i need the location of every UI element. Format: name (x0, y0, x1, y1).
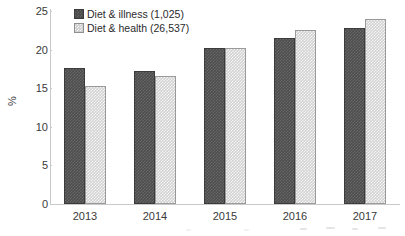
legend-item-diet-health: Diet & health (26,537) (74, 21, 189, 35)
bar-2017-diet-illness (344, 28, 365, 204)
x-tick-label: 2015 (185, 210, 265, 222)
bar-chart: % 25 20 15 10 5 0 20132014201520162017 D… (0, 0, 405, 236)
legend-swatch-icon (74, 9, 84, 19)
y-tick-label: 15 (4, 83, 48, 94)
x-tick-label: 2014 (115, 210, 195, 222)
bar-2015-diet-health (225, 48, 246, 204)
bar-2016-diet-health (295, 30, 316, 204)
bar-group (204, 0, 246, 204)
y-tick-label: 5 (4, 160, 48, 171)
y-tick-label: 20 (4, 44, 48, 55)
bar-2013-diet-illness (64, 68, 85, 204)
bar-2016-diet-illness (274, 38, 295, 204)
y-tick-label: 0 (4, 199, 48, 210)
legend-swatch-icon (74, 23, 84, 33)
legend-item-label: Diet & illness (1,025) (87, 7, 184, 21)
legend-item-diet-illness: Diet & illness (1,025) (74, 7, 189, 21)
bar-2017-diet-health (365, 19, 386, 204)
chart-legend: Diet & illness (1,025) Diet & health (26… (74, 7, 189, 35)
y-axis-ticks: 25 20 15 10 5 0 (0, 0, 48, 236)
legend-item-label: Diet & health (26,537) (87, 21, 189, 35)
bar-2013-diet-health (85, 86, 106, 204)
bar-2014-diet-illness (134, 71, 155, 204)
x-axis-line (50, 204, 400, 205)
bar-group (344, 0, 386, 204)
y-tick-label: 10 (4, 121, 48, 132)
x-tick-label: 2016 (255, 210, 335, 222)
bar-2015-diet-illness (204, 48, 225, 204)
bar-2014-diet-health (155, 76, 176, 204)
bar-group (274, 0, 316, 204)
scan-artifacts (0, 224, 405, 236)
x-tick-label: 2013 (45, 210, 125, 222)
y-tick-label: 25 (4, 6, 48, 17)
x-tick-label: 2017 (325, 210, 405, 222)
